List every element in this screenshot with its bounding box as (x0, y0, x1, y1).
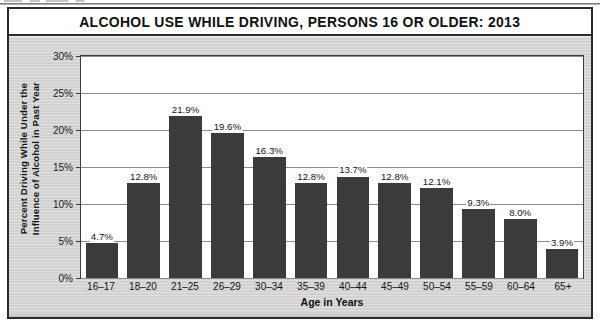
x-axis-tick-label: 45–49 (374, 281, 416, 292)
bar-value-label: 13.7% (338, 164, 367, 175)
bar-value-label: 3.9% (550, 237, 574, 248)
y-axis-tick-label: 0% (59, 273, 73, 284)
x-axis-tick-label: 21–25 (164, 281, 206, 292)
bar-slot: 19.6% (206, 56, 248, 278)
scan-artifact-strip (0, 0, 600, 5)
chart-title-band: ALCOHOL USE WHILE DRIVING, PERSONS 16 OR… (9, 9, 591, 36)
bar-slot: 21.9% (165, 56, 207, 278)
y-axis-title-line-1: Percent Driving While Under the (18, 83, 30, 234)
bar[interactable]: 16.3% (253, 157, 286, 278)
gridline (81, 278, 583, 279)
bar[interactable]: 19.6% (211, 133, 244, 278)
bar-value-label: 12.8% (296, 171, 325, 182)
y-axis-tick-label: 15% (53, 162, 73, 173)
bar-slot: 13.7% (332, 56, 374, 278)
bar-value-label: 19.6% (213, 121, 242, 132)
x-axis-tick-label: 16–17 (80, 281, 122, 292)
bar[interactable]: 12.8% (295, 183, 328, 278)
x-axis-tick-label: 55–59 (458, 281, 500, 292)
bar[interactable]: 9.3% (462, 209, 495, 278)
bar[interactable]: 4.7% (86, 243, 119, 278)
x-axis-tick-label: 40–44 (332, 281, 374, 292)
bar[interactable]: 21.9% (169, 116, 202, 278)
bar-value-label: 8.0% (508, 207, 532, 218)
y-axis-tick-label: 10% (53, 198, 73, 209)
y-axis-tick-label: 5% (59, 236, 73, 247)
bar-slot: 9.3% (457, 56, 499, 278)
y-axis-title-line-2: Influence of Alcohol in Past Year (30, 82, 42, 235)
x-axis-title: Age in Years (80, 296, 584, 308)
x-axis-tick-label: 18–20 (122, 281, 164, 292)
y-axis-tick (76, 278, 81, 279)
bar-series: 4.7%12.8%21.9%19.6%16.3%12.8%13.7%12.8%1… (81, 56, 583, 278)
x-axis-tick-label: 30–34 (248, 281, 290, 292)
bar[interactable]: 12.8% (127, 183, 160, 278)
bar-value-label: 21.9% (171, 104, 200, 115)
bar[interactable]: 12.8% (378, 183, 411, 278)
chart-figure: ALCOHOL USE WHILE DRIVING, PERSONS 16 OR… (7, 7, 593, 319)
bar-value-label: 9.3% (466, 197, 490, 208)
x-axis-tick-label: 35–39 (290, 281, 332, 292)
chart-panel: Percent Driving While Under the Influenc… (9, 36, 591, 317)
bar[interactable]: 3.9% (546, 249, 579, 278)
bar-value-label: 4.7% (90, 231, 114, 242)
x-axis-tick-label: 65+ (542, 281, 584, 292)
page-title: ALCOHOL USE WHILE DRIVING, PERSONS 16 OR… (79, 14, 520, 30)
bar-value-label: 12.8% (129, 171, 158, 182)
bar-value-label: 16.3% (254, 145, 283, 156)
y-axis-tick-label: 30% (53, 51, 73, 62)
bar-value-label: 12.8% (380, 171, 409, 182)
x-axis-tick-labels: 16–1718–2021–2526–2930–3435–3940–4445–49… (80, 281, 584, 292)
bar[interactable]: 8.0% (504, 219, 537, 278)
bar-slot: 4.7% (81, 56, 123, 278)
y-axis-title: Percent Driving While Under the Influenc… (13, 37, 47, 280)
plot-area: 0%5%10%15%20%25%30% 4.7%12.8%21.9%19.6%1… (80, 55, 584, 279)
bar-slot: 3.9% (541, 56, 583, 278)
bar-slot: 12.8% (123, 56, 165, 278)
x-axis-tick-label: 60–64 (500, 281, 542, 292)
bar-slot: 16.3% (248, 56, 290, 278)
bar[interactable]: 12.1% (420, 188, 453, 278)
bar-slot: 12.8% (290, 56, 332, 278)
y-axis-tick-label: 25% (53, 87, 73, 98)
x-axis-tick-label: 26–29 (206, 281, 248, 292)
x-axis-tick-label: 50–54 (416, 281, 458, 292)
bar-slot: 8.0% (499, 56, 541, 278)
bar[interactable]: 13.7% (337, 177, 370, 278)
bar-slot: 12.1% (416, 56, 458, 278)
panel-bottom-edge (9, 311, 591, 317)
bar-value-label: 12.1% (422, 176, 451, 187)
y-axis-tick-label: 20% (53, 124, 73, 135)
bar-slot: 12.8% (374, 56, 416, 278)
